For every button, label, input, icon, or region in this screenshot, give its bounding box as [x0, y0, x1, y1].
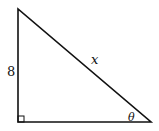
triangle: [18, 9, 151, 122]
angle-theta-label: θ: [128, 111, 135, 124]
right-angle-marker: [18, 116, 24, 122]
vertical-leg-label: 8: [7, 64, 15, 79]
right-triangle-diagram: 8 x θ: [0, 0, 159, 131]
hypotenuse-label: x: [91, 52, 99, 67]
